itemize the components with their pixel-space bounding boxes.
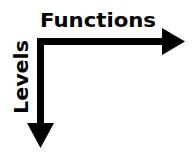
horizontal-axis-line <box>37 38 165 45</box>
vertical-axis-label: Levels <box>10 40 33 114</box>
horizontal-axis-label: Functions <box>40 9 156 32</box>
vertical-axis-line <box>37 38 44 126</box>
axes-diagram: Functions Levels <box>0 0 195 158</box>
